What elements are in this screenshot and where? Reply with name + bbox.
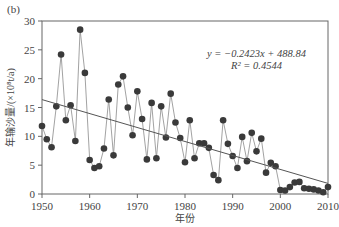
data-point [239, 134, 246, 141]
data-point [82, 70, 89, 77]
data-point [258, 135, 265, 142]
data-point [182, 159, 189, 166]
data-point [158, 103, 165, 110]
data-point [210, 172, 217, 179]
data-point [215, 177, 222, 184]
data-point [253, 148, 260, 155]
x-tick-label: 1990 [222, 200, 245, 212]
data-point [225, 141, 232, 148]
trend-line [42, 100, 328, 184]
r-squared: R² = 0.4544 [230, 60, 283, 71]
y-tick-label: 25 [24, 44, 36, 56]
data-point [186, 117, 193, 124]
data-point [39, 123, 46, 130]
data-point [287, 184, 294, 191]
y-tick-label: 30 [24, 15, 36, 27]
y-tick-label: 10 [24, 130, 36, 142]
x-tick-label: 1950 [31, 200, 54, 212]
x-tick-label: 1970 [126, 200, 149, 212]
data-point [86, 157, 93, 164]
data-point [148, 100, 155, 107]
data-point [43, 136, 50, 143]
data-point [48, 144, 55, 151]
y-axis-label: 年输沙量/(×10⁸t/a) [4, 68, 17, 147]
data-point [191, 155, 198, 162]
data-point [110, 152, 117, 159]
data-point [129, 132, 136, 139]
data-point [263, 169, 270, 176]
data-point [248, 130, 255, 137]
data-point [167, 90, 174, 97]
y-tick-label: 0 [30, 188, 36, 200]
data-point [320, 189, 327, 196]
y-tick-label: 20 [24, 73, 36, 85]
regression-equation: y = −0.2423x + 488.84 [206, 48, 307, 59]
data-point [101, 145, 108, 152]
x-tick-label: 2010 [317, 200, 339, 212]
data-point [172, 119, 179, 126]
y-tick-label: 15 [24, 102, 36, 114]
data-point [296, 179, 303, 186]
data-point [201, 140, 208, 147]
chart: (b) 051015202530195019601970198019902000… [0, 0, 339, 227]
data-point [120, 73, 127, 80]
x-tick-label: 1960 [79, 200, 102, 212]
data-point [72, 138, 79, 145]
data-point [153, 155, 160, 162]
y-tick-label: 5 [30, 159, 36, 171]
x-tick-label: 1980 [174, 200, 197, 212]
panel-label: (b) [7, 3, 20, 15]
x-tick-label: 2000 [269, 200, 292, 212]
data-point [139, 116, 146, 123]
data-point [63, 117, 70, 124]
data-point [105, 96, 112, 103]
data-point [220, 117, 227, 124]
data-point [58, 51, 65, 58]
x-axis-label: 年份 [175, 212, 195, 224]
data-point [144, 156, 151, 163]
data-point [96, 163, 103, 170]
data-point [134, 88, 141, 95]
data-point [325, 184, 332, 191]
data-point [77, 26, 84, 33]
plot-area: 0510152025301950196019701980199020002010… [0, 0, 339, 227]
data-point [115, 81, 122, 88]
data-point [125, 104, 132, 111]
data-point [234, 165, 241, 172]
